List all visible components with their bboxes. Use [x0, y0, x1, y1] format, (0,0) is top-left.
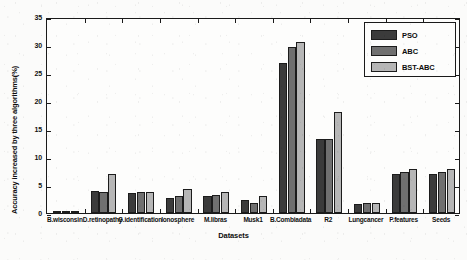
bar-pso-7: [316, 139, 324, 213]
legend-label-abc: ABC: [402, 47, 418, 56]
y-tick-mark: [47, 19, 51, 20]
x-tick-mark-top: [122, 19, 123, 23]
x-tick-mark: [235, 209, 236, 213]
x-tick-mark-top: [198, 19, 199, 23]
x-tick-mark-top: [310, 19, 311, 23]
y-tick-mark: [47, 159, 51, 160]
legend-item-pso: PSO: [371, 27, 455, 43]
x-tick-mark: [310, 209, 311, 213]
y-tick-mark: [47, 75, 51, 76]
y-tick-mark: [47, 131, 51, 132]
y-tick-label: 25: [22, 70, 42, 77]
bar-abc-0: [62, 211, 70, 213]
bar-bst-abc-5: [259, 196, 267, 213]
bar-abc-5: [250, 203, 258, 213]
bar-abc-6: [288, 47, 296, 213]
legend-swatch-pso: [371, 30, 397, 40]
y-tick-mark: [47, 103, 51, 104]
legend-swatch-bst-abc: [371, 62, 397, 72]
y-tick-label: 20: [22, 98, 42, 105]
bar-abc-2: [137, 192, 145, 213]
y-tick-mark-right: [455, 159, 459, 160]
legend-swatch-abc: [371, 46, 397, 56]
bar-bst-abc-9: [409, 169, 417, 213]
x-tick-mark: [122, 209, 123, 213]
bar-abc-7: [325, 139, 333, 213]
x-tick-mark: [423, 209, 424, 213]
y-tick-label: 35: [22, 14, 42, 21]
x-tick-mark-top: [235, 19, 236, 23]
y-tick-mark: [47, 187, 51, 188]
x-tick-label: Seeds: [401, 216, 467, 223]
legend-label-pso: PSO: [402, 31, 418, 40]
y-tick-label: 10: [22, 154, 42, 161]
legend: PSO ABC BST-ABC: [364, 22, 456, 77]
y-tick-label: 15: [22, 126, 42, 133]
y-tick-mark-right: [455, 131, 459, 132]
bar-abc-8: [363, 203, 371, 213]
bar-pso-10: [429, 174, 437, 213]
bar-bst-abc-4: [221, 192, 229, 213]
bar-bst-abc-2: [146, 192, 154, 213]
bar-bst-abc-1: [108, 174, 116, 213]
bar-pso-4: [203, 196, 211, 213]
bar-pso-9: [392, 174, 400, 213]
bar-bst-abc-8: [372, 203, 380, 213]
x-tick-mark: [160, 209, 161, 213]
bar-pso-8: [354, 204, 362, 213]
bar-bst-abc-0: [71, 211, 79, 213]
bar-abc-3: [175, 196, 183, 213]
x-tick-mark-top: [348, 19, 349, 23]
bar-chart: Accuracy increased by three algorithms(%…: [0, 0, 467, 260]
x-tick-mark: [386, 209, 387, 213]
bar-bst-abc-10: [447, 169, 455, 213]
x-tick-mark-top: [85, 19, 86, 23]
y-tick-mark-right: [455, 19, 459, 20]
bar-pso-3: [166, 198, 174, 213]
bar-abc-1: [99, 192, 107, 213]
y-tick-label: 30: [22, 42, 42, 49]
bar-bst-abc-7: [334, 112, 342, 213]
legend-item-bst-abc: BST-ABC: [371, 59, 455, 75]
x-tick-mark-top: [273, 19, 274, 23]
bar-pso-6: [279, 63, 287, 213]
bar-bst-abc-3: [183, 189, 191, 213]
bar-abc-4: [212, 195, 220, 213]
bar-abc-10: [438, 172, 446, 213]
bar-pso-5: [241, 200, 249, 213]
bar-bst-abc-6: [296, 42, 304, 213]
y-tick-mark: [47, 47, 51, 48]
bar-pso-2: [128, 193, 136, 213]
bar-pso-0: [53, 211, 61, 213]
legend-label-bst-abc: BST-ABC: [402, 63, 435, 72]
x-tick-mark: [85, 209, 86, 213]
x-tick-mark: [273, 209, 274, 213]
bar-abc-9: [400, 172, 408, 213]
x-tick-mark: [198, 209, 199, 213]
x-tick-mark: [348, 209, 349, 213]
bar-pso-1: [91, 191, 99, 213]
x-axis-title: Datasets: [0, 231, 467, 240]
y-tick-mark-right: [455, 187, 459, 188]
legend-item-abc: ABC: [371, 43, 455, 59]
x-tick-mark-top: [160, 19, 161, 23]
y-tick-label: 5: [22, 182, 42, 189]
y-tick-mark-right: [455, 103, 459, 104]
